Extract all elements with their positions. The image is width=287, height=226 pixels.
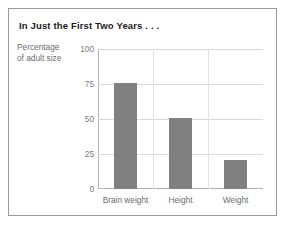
- y-tick-label-75: 75: [85, 79, 94, 89]
- category-label-weight: Weight: [223, 195, 249, 205]
- plot-area: 0255075100Brain weightHeightWeight: [98, 49, 263, 189]
- y-tick-label-100: 100: [80, 44, 94, 54]
- y-tick-label-25: 25: [85, 149, 94, 159]
- category-label-height: Height: [169, 195, 193, 205]
- y-tick-label-50: 50: [85, 114, 94, 124]
- y-axis-label-line-2: of adult size: [17, 53, 81, 64]
- chart-title: In Just the First Two Years . . .: [19, 20, 159, 31]
- category-label-brain-weight: Brain weight: [103, 195, 149, 205]
- bar-brain-weight: [114, 83, 137, 189]
- y-axis-label: Percentage of adult size: [17, 42, 81, 63]
- chart-figure: In Just the First Two Years . . . Percen…: [8, 8, 277, 216]
- category-divider-2: [208, 49, 209, 189]
- bar-height: [169, 118, 192, 189]
- bar-weight: [224, 160, 247, 189]
- category-divider-1: [153, 49, 154, 189]
- gridline-100: [98, 49, 263, 50]
- y-axis-label-line-1: Percentage: [17, 42, 81, 53]
- y-tick-label-0: 0: [89, 184, 94, 194]
